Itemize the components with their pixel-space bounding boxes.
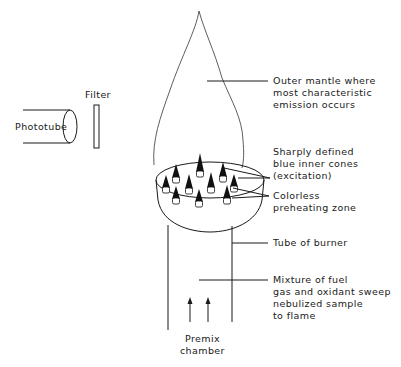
filter-shape	[94, 105, 99, 148]
preheating-zone-line: preheating zone	[273, 202, 356, 214]
inner-cones-line: Sharply defined	[273, 146, 358, 158]
mixture-label: Mixture of fuel gas and oxidant sweep ne…	[273, 274, 391, 322]
outer-mantle-shape	[154, 11, 244, 168]
mixture-line: to flame	[273, 310, 391, 322]
outer-mantle-line: Outer mantle where	[273, 75, 376, 87]
inner-cone	[185, 174, 193, 194]
inner-cone	[207, 172, 215, 193]
inner-cones-label: Sharply defined blue inner cones (excita…	[273, 146, 358, 182]
burner-tube-shape	[168, 225, 232, 330]
mixture-line: nebulized sample	[273, 298, 391, 310]
filter-label: Filter	[85, 89, 111, 101]
mixture-line: Mixture of fuel	[273, 274, 391, 286]
premix-line: Premix	[180, 333, 225, 345]
outer-mantle-label: Outer mantle where most characteristic e…	[273, 75, 376, 111]
inner-cone	[162, 175, 170, 193]
preheating-zone-line: Colorless	[273, 190, 356, 202]
premix-chamber-label: Premix chamber	[180, 333, 225, 357]
outer-mantle-line: emission occurs	[273, 99, 376, 111]
preheating-zone-label: Colorless preheating zone	[273, 190, 356, 214]
inner-cones-line: (excitation)	[273, 170, 358, 182]
premix-line: chamber	[180, 345, 225, 357]
outer-mantle-line: most characteristic	[273, 87, 376, 99]
inner-cone	[196, 153, 204, 177]
phototube-label: Phototube	[15, 121, 67, 133]
inner-cone	[219, 162, 227, 182]
mixture-line: gas and oxidant sweep	[273, 286, 391, 298]
inner-cone	[223, 185, 231, 204]
burner-tube-label: Tube of burner	[273, 237, 348, 249]
burner-tube-line: Tube of burner	[273, 237, 348, 249]
inner-cones	[162, 153, 238, 207]
inner-cones-line: blue inner cones	[273, 158, 358, 170]
flow-arrows	[188, 297, 211, 322]
